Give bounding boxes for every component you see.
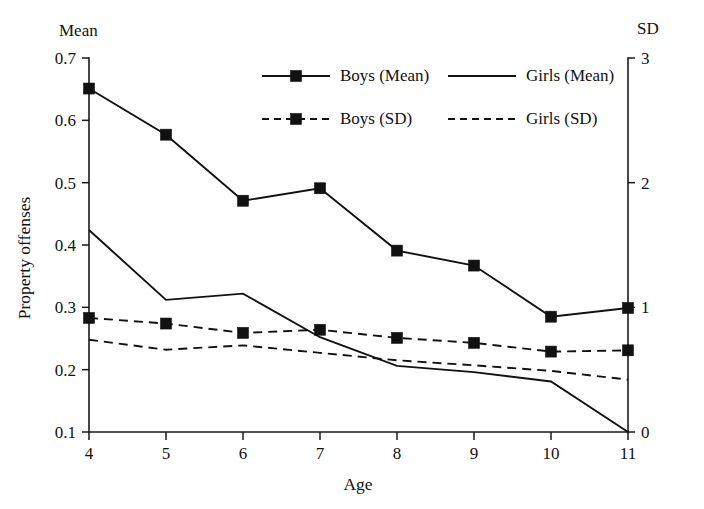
x-axis-tick-label: 5	[162, 444, 171, 463]
data-point-marker	[392, 245, 403, 256]
legend-marker-swatch	[291, 114, 302, 125]
x-axis-tick-label: 11	[620, 444, 636, 463]
y2-axis-tick-label: 1	[641, 298, 650, 317]
data-point-marker	[623, 345, 634, 356]
y-axis-tick-label: 0.6	[55, 111, 76, 130]
y-axis-tick-label: 0.1	[55, 423, 76, 442]
data-point-marker	[161, 129, 172, 140]
data-point-marker	[392, 332, 403, 343]
property-offenses-line-chart: Mean SD Property offenses Age 0.10.20.30…	[0, 0, 704, 509]
data-point-marker	[238, 327, 249, 338]
left-axis-header-label: Mean	[59, 21, 98, 40]
y2-axis-tick-label: 0	[641, 423, 650, 442]
data-point-marker	[546, 311, 557, 322]
legend-label: Girls (SD)	[526, 109, 597, 128]
series-line	[89, 230, 628, 432]
y2-axis-tick-label: 2	[641, 174, 650, 193]
series-girls-sd	[89, 340, 628, 380]
legend-item: Girls (Mean)	[448, 66, 614, 85]
data-point-marker	[546, 346, 557, 357]
legend-item: Boys (Mean)	[262, 66, 429, 85]
right-axis-header-label: SD	[637, 19, 659, 38]
y-axis-tick-label: 0.2	[55, 361, 76, 380]
data-point-marker	[84, 312, 95, 323]
legend-label: Girls (Mean)	[526, 66, 614, 85]
legend-label: Boys (SD)	[340, 109, 412, 128]
data-point-marker	[623, 302, 634, 313]
data-point-marker	[315, 324, 326, 335]
data-point-marker	[315, 183, 326, 194]
x-axis-tick-label: 8	[393, 444, 402, 463]
data-series	[84, 83, 634, 432]
y2-axis-tick-label: 3	[641, 49, 650, 68]
y-axis-tick-label: 0.7	[55, 49, 77, 68]
data-point-marker	[161, 318, 172, 329]
data-point-marker	[469, 337, 480, 348]
series-girls-mean	[89, 230, 628, 432]
legend-item: Boys (SD)	[262, 109, 412, 128]
y-axis-tick-label: 0.4	[55, 236, 77, 255]
legend-label: Boys (Mean)	[340, 66, 429, 85]
x-axis-tick-label: 4	[85, 444, 94, 463]
series-line	[89, 340, 628, 380]
legend-marker-swatch	[291, 71, 302, 82]
data-point-marker	[469, 260, 480, 271]
chart-figure: Mean SD Property offenses Age 0.10.20.30…	[0, 0, 704, 509]
y-axis-tick-label: 0.3	[55, 298, 76, 317]
legend-item: Girls (SD)	[448, 109, 597, 128]
x-axis-title: Age	[343, 474, 372, 494]
y-axis-title: Property offenses	[14, 196, 34, 319]
y-axis-tick-label: 0.5	[55, 174, 76, 193]
data-point-marker	[84, 83, 95, 94]
x-axis-tick-label: 7	[316, 444, 325, 463]
x-axis-tick-label: 10	[543, 444, 560, 463]
chart-legend: Boys (Mean)Girls (Mean)Boys (SD)Girls (S…	[262, 66, 614, 128]
x-axis-tick-label: 6	[239, 444, 248, 463]
x-axis-tick-label: 9	[470, 444, 479, 463]
data-point-marker	[238, 195, 249, 206]
